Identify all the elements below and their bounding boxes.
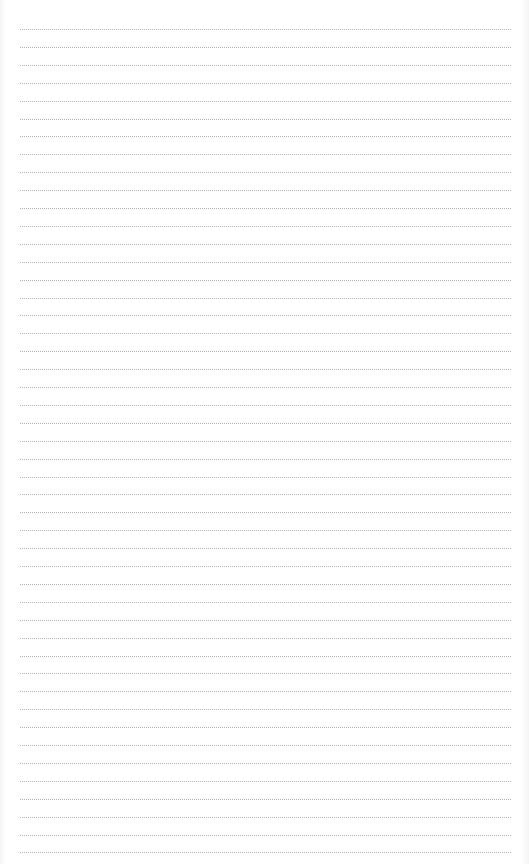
rule-line: [20, 333, 511, 334]
rule-line: [20, 548, 511, 549]
rule-line: [20, 65, 511, 66]
rule-line: [20, 530, 511, 531]
rule-line: [20, 494, 511, 495]
rule-line: [20, 602, 511, 603]
rule-line: [20, 351, 511, 352]
rule-line: [20, 47, 511, 48]
rule-line: [20, 154, 511, 155]
rule-line: [20, 369, 511, 370]
rule-line: [20, 709, 511, 710]
rule-line: [20, 298, 511, 299]
rule-line: [20, 799, 511, 800]
rule-line: [20, 136, 511, 137]
rule-line: [20, 226, 511, 227]
page-right-edge: [521, 0, 529, 864]
rule-line: [20, 172, 511, 173]
rule-line: [20, 656, 511, 657]
rule-line: [20, 459, 511, 460]
rule-line: [20, 83, 511, 84]
rule-line: [20, 119, 511, 120]
rule-line: [20, 852, 511, 853]
rule-line: [20, 441, 511, 442]
page-left-edge: [0, 0, 6, 864]
rule-line: [20, 262, 511, 263]
rule-line: [20, 691, 511, 692]
rule-line: [20, 781, 511, 782]
rule-line: [20, 208, 511, 209]
rule-line: [20, 763, 511, 764]
rule-line: [20, 101, 511, 102]
rule-line: [20, 817, 511, 818]
rule-line: [20, 280, 511, 281]
rule-line: [20, 244, 511, 245]
rule-line: [20, 405, 511, 406]
rule-line: [20, 745, 511, 746]
rule-line: [20, 29, 511, 30]
rule-line: [20, 315, 511, 316]
rule-line: [20, 620, 511, 621]
rule-line: [20, 477, 511, 478]
rule-line: [20, 835, 511, 836]
rule-line: [20, 638, 511, 639]
rule-line: [20, 727, 511, 728]
lined-page: [0, 0, 529, 864]
rule-line: [20, 423, 511, 424]
rule-line: [20, 566, 511, 567]
rule-line: [20, 512, 511, 513]
rule-line: [20, 673, 511, 674]
rule-line: [20, 387, 511, 388]
rule-line: [20, 190, 511, 191]
rule-line: [20, 584, 511, 585]
